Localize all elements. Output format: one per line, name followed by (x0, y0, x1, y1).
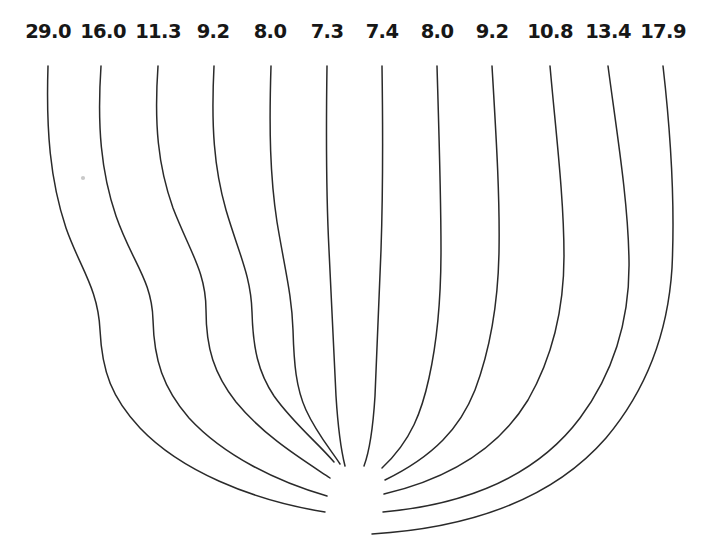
scan-speck-artifact (81, 176, 85, 180)
streamline-7.3 (326, 66, 345, 466)
streamline-7.4 (364, 66, 383, 466)
streamline-13.4 (383, 66, 629, 512)
streamline-9.2 (213, 66, 334, 462)
streamline-17.9 (372, 66, 673, 534)
streamline-8.0r (382, 66, 441, 468)
streamline-9.2r (385, 66, 499, 480)
figure-root: 29.016.011.39.28.07.37.48.09.210.813.417… (0, 0, 705, 536)
streamline-plot (0, 0, 705, 536)
streamline-29.0 (48, 66, 325, 512)
streamline-group (48, 66, 673, 534)
streamline-11.3 (157, 66, 330, 478)
